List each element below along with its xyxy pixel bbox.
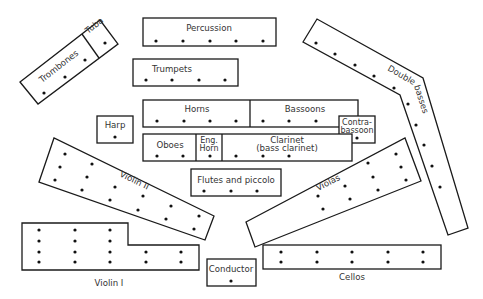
section-oboes-enghorn-clarinet: Oboes Eng. Horn Clarinet (bass clarinet) [143,134,352,161]
player-dot [234,154,237,157]
player-dot [234,119,237,122]
enghorn-label-line2: Horn [199,144,218,153]
player-dot [37,239,40,242]
clarinet-label-line2: (bass clarinet) [256,143,318,153]
player-dot [208,154,211,157]
bassoons-label: Bassoons [285,104,326,114]
oboes-label: Oboes [156,140,184,150]
player-dot [261,39,264,42]
player-dot [169,204,172,207]
player-dot [421,260,424,263]
player-dot [422,143,425,146]
player-dot [202,189,205,192]
player-dot [399,165,402,168]
player-dot [144,260,147,263]
player-dot [414,123,417,126]
player-dot [421,250,424,253]
player-dot [103,41,106,44]
player-dot [314,119,317,122]
player-dot [155,119,158,122]
player-dot [192,227,195,230]
player-dot [406,102,409,105]
player-dot [279,250,282,253]
section-conductor: Conductor [207,259,256,286]
section-cellos: Cellos [263,245,441,282]
player-dot [113,185,116,188]
trumpets-label: Trumpets [151,64,192,74]
section-percussion: Percussion [143,18,276,46]
player-dot [371,175,374,178]
player-dot [155,154,158,157]
player-dot [386,250,389,253]
player-dot [73,239,76,242]
harp-label: Harp [105,120,126,130]
player-dot [208,119,211,122]
player-dot [113,135,116,138]
player-dot [144,250,147,253]
player-dot [372,74,375,77]
player-dot [208,39,211,42]
player-dot [144,78,147,81]
player-dot [287,119,290,122]
player-dot [287,154,290,157]
player-dot [321,207,324,210]
player-dot [279,260,282,263]
player-dot [42,91,45,94]
section-flutes: Flutes and piccolo [191,169,281,196]
player-dot [108,228,111,231]
player-dot [108,239,111,242]
player-dot [315,250,318,253]
percussion-label: Percussion [186,23,232,33]
player-dot [197,214,200,217]
player-dot [90,162,93,165]
conductor-label: Conductor [209,264,254,274]
player-dot [108,250,111,253]
player-dot [170,78,173,81]
section-harp: Harp [97,116,133,143]
player-dot [108,260,111,263]
player-dot [37,260,40,263]
player-dot [63,152,66,155]
section-violin-i: Violin I [22,223,199,288]
horns-label: Horns [184,104,210,114]
player-dot [438,185,441,188]
player-dot [316,194,319,197]
player-dot [181,154,184,157]
player-dot [179,250,182,253]
player-dot [136,208,139,211]
player-dot [355,136,358,139]
section-trumpets: Trumpets [133,59,238,86]
player-dot [80,188,83,191]
player-dot [37,228,40,231]
player-dot [58,165,61,168]
player-dot [63,75,66,78]
player-dot [234,39,237,42]
player-dot [350,250,353,253]
orchestra-seating-diagram: Trombones Tuba Percussion Trumpets Horns… [0,0,483,299]
section-horns-bassoons: Horns Bassoons [143,100,358,127]
player-dot [154,39,157,42]
player-dot [348,197,351,200]
player-dot [37,250,40,253]
player-dot [73,228,76,231]
player-dot [430,164,433,167]
player-dot [404,178,407,181]
player-dot [223,78,226,81]
section-trombones-tuba: Trombones Tuba [20,15,118,104]
player-dot [366,161,369,164]
flutes-label: Flutes and piccolo [197,175,275,185]
player-dot [197,78,200,81]
player-dot [73,260,76,263]
player-dot [83,58,86,61]
player-dot [392,86,395,89]
player-dot [85,175,88,178]
player-dot [141,194,144,197]
player-dot [255,189,258,192]
player-dot [315,260,318,263]
player-dot [73,250,76,253]
player-dot [108,198,111,201]
player-dot [350,260,353,263]
player-dot [353,63,356,66]
cellos-box [263,245,441,269]
player-dot [181,39,184,42]
